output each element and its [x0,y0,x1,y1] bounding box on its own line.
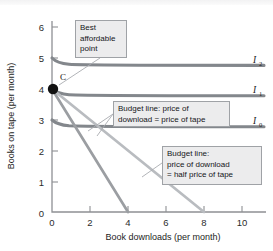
y-tick-label-5: 5 [39,53,44,64]
svg-text:I: I [252,116,257,126]
indifference-curve-i2 [52,58,264,65]
svg-text:2: 2 [259,60,262,67]
y-tick-label-3: 3 [39,115,44,126]
chart-figure: 6 5 4 3 2 1 0 0 2 4 6 8 10 Book download… [0,0,273,251]
x-axis-title: Book downloads (per month) [105,232,220,242]
y-tick-label-6: 6 [39,22,44,33]
x-axis-ticks [90,206,242,212]
indifference-curve-i1 [52,89,264,96]
x-tick-label-2: 2 [87,217,92,228]
svg-text:I: I [252,85,257,95]
budget-line-equal-price-callout: Budget line: price of download = price o… [113,101,230,127]
x-tick-label-0: 0 [49,217,54,228]
x-tick-label-6: 6 [163,217,168,228]
y-tick-label-1: 1 [39,177,44,188]
y-tick-label-4: 4 [39,84,44,95]
svg-text:1: 1 [259,90,262,97]
y-axis-title: Books on tape (per month) [6,63,16,170]
svg-text:0: 0 [259,121,262,128]
x-tick-label-10: 10 [237,217,248,228]
y-axis-ticks [52,27,58,182]
budget-line-half-price-callout: Budget line: price of download = half pr… [162,146,262,185]
svg-text:I: I [252,55,257,65]
best-affordable-point-callout: Best affordable point [75,20,127,58]
best-affordable-point-marker [48,84,58,94]
y-tick-label-0: 0 [39,208,44,219]
x-tick-label-8: 8 [201,217,206,228]
y-tick-label-2: 2 [39,146,44,157]
x-tick-label-4: 4 [125,217,130,228]
